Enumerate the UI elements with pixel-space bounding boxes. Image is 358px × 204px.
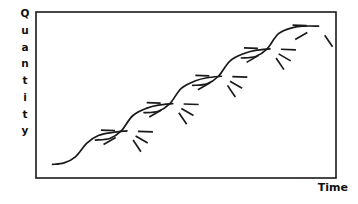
spray-dash [281, 49, 296, 50]
spray-dash [184, 104, 199, 105]
plot-area [0, 0, 358, 204]
s-curve-figure: Q u a n t i t y Time [0, 0, 358, 204]
x-axis-label: Time [318, 181, 348, 194]
spray-dash [138, 131, 153, 132]
plot-frame [36, 12, 336, 178]
spray-dash [232, 77, 247, 78]
